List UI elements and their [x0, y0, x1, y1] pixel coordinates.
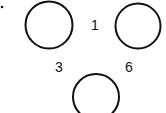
label-right: 6: [125, 60, 133, 74]
dot-marker: [1, 6, 4, 9]
diagram-canvas: [0, 0, 166, 113]
circle-top-left: [26, 2, 73, 49]
circle-bottom: [73, 74, 119, 113]
label-left: 3: [55, 60, 63, 74]
circle-top-right: [116, 4, 161, 49]
label-top: 1: [91, 18, 99, 32]
